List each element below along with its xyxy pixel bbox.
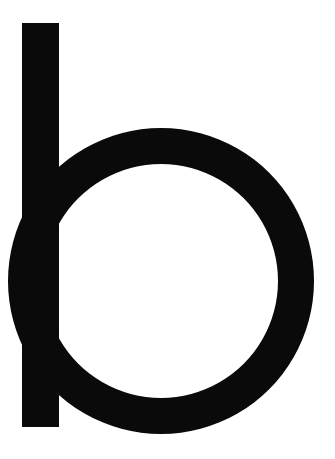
glyph-canvas: b bbox=[0, 0, 335, 459]
letter-b-icon bbox=[0, 0, 335, 459]
